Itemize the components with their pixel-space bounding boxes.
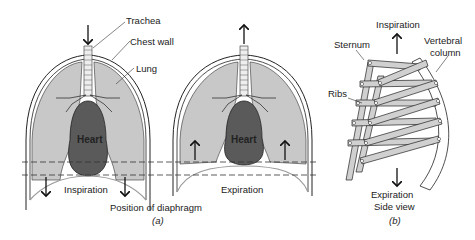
sternum-label: Sternum xyxy=(334,39,370,50)
vertebral-column-label-line1: Vertebral xyxy=(424,35,462,46)
vertebral-leader xyxy=(436,56,448,72)
vertebral-column-label-line2: column xyxy=(430,47,461,58)
expiration-label-b: Expiration xyxy=(371,189,413,200)
heart-label-inspiration: Heart xyxy=(77,134,103,145)
lung-label: Lung xyxy=(136,63,157,74)
chest-wall-label: Chest wall xyxy=(130,36,174,47)
inspiration-label-b: Inspiration xyxy=(376,19,420,30)
trachea-leader xyxy=(93,22,125,48)
expiration-label: Expiration xyxy=(221,184,263,195)
sternum-leader xyxy=(356,50,364,60)
trachea-label: Trachea xyxy=(126,15,161,26)
chest-wall-leader xyxy=(112,41,130,60)
inspiration-chest xyxy=(26,25,150,210)
trachea xyxy=(84,46,92,96)
trachea xyxy=(240,46,248,96)
panel-b-caption: (b) xyxy=(389,215,401,226)
heart-label-expiration: Heart xyxy=(231,134,257,145)
expiration-chest xyxy=(173,25,312,196)
inspiration-label: Inspiration xyxy=(64,184,108,195)
ribs-label: Ribs xyxy=(328,88,347,99)
diaphragm-position-label: Position of diaphragm xyxy=(110,202,202,213)
side-view-label: Side view xyxy=(374,201,415,212)
panel-a-caption: (a) xyxy=(152,215,164,226)
respiration-diagram: Trachea Chest wall Lung Heart Heart Insp… xyxy=(0,0,475,240)
